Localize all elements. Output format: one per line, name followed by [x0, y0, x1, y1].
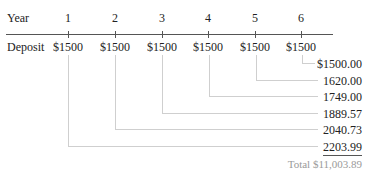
connector-line — [68, 55, 69, 146]
deposit-label: $1500 — [100, 40, 130, 54]
future-value: $1500.00 — [317, 57, 362, 71]
axis-tick — [255, 31, 256, 38]
connector-line — [162, 55, 163, 113]
axis-tick — [208, 31, 209, 38]
timeline-axis — [6, 34, 333, 35]
deposit-label: $1500 — [286, 40, 316, 54]
connector-line — [256, 80, 318, 81]
year-label: 3 — [159, 11, 165, 25]
deposit-label: $1500 — [193, 40, 223, 54]
connector-line — [302, 63, 315, 64]
connector-line — [115, 129, 318, 130]
connector-line — [115, 55, 116, 129]
future-value: 1620.00 — [323, 74, 362, 88]
deposit-label: $1500 — [147, 40, 177, 54]
deposit-label: $1500 — [53, 40, 83, 54]
axis-tick — [115, 31, 116, 38]
year-label: 5 — [252, 11, 258, 25]
year-row-label: Year — [7, 11, 29, 25]
future-value: 1749.00 — [323, 90, 362, 104]
future-value: 1889.57 — [323, 107, 362, 121]
connector-line — [162, 113, 318, 114]
connector-line — [209, 55, 210, 97]
connector-line — [256, 55, 257, 81]
future-value: 2203.99 — [323, 140, 362, 154]
connector-line — [209, 96, 318, 97]
year-label: 2 — [112, 11, 118, 25]
axis-tick — [162, 31, 163, 38]
deposit-label: $1500 — [240, 40, 270, 54]
year-label: 1 — [65, 11, 71, 25]
axis-tick — [68, 31, 69, 38]
future-value: 2040.73 — [323, 123, 362, 137]
deposit-row-label: Deposit — [7, 40, 44, 54]
axis-tick — [301, 31, 302, 38]
sum-underline — [323, 155, 362, 156]
connector-line — [68, 146, 318, 147]
total-value: Total $11,003.89 — [288, 158, 362, 171]
year-label: 6 — [298, 11, 304, 25]
year-label: 4 — [205, 11, 211, 25]
